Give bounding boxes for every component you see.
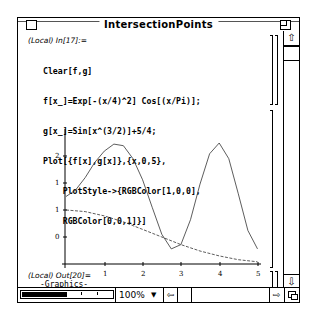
graphics-cell-bracket[interactable]: [270, 110, 273, 268]
svg-text:1: 1: [55, 206, 59, 214]
notebook-content[interactable]: (Local) In[17]:= Clear[f,g] f[x_]=Exp[-(…: [18, 31, 284, 289]
svg-text:1: 1: [55, 179, 59, 187]
zoom-box-icon[interactable]: [280, 20, 291, 30]
vertical-scroll-thumb[interactable]: [284, 46, 299, 61]
svg-text:2: 2: [141, 270, 145, 278]
vertical-scrollbar[interactable]: ⇧ ⇩: [283, 31, 299, 289]
notebook-window: IntersectionPoints (Local) In[17]:= Clea…: [17, 17, 300, 303]
series-g-curve: [66, 143, 258, 249]
window-title: IntersectionPoints: [99, 18, 218, 31]
svg-text:4: 4: [218, 270, 223, 278]
series-f-curve: [66, 210, 258, 262]
input-cell-bracket[interactable]: [270, 35, 273, 105]
horizontal-scroll-thumb[interactable]: [178, 288, 192, 302]
x-tick-labels: 1 2 3 4 5: [103, 270, 260, 278]
group-cell-bracket[interactable]: [275, 35, 278, 105]
svg-text:2: 2: [55, 152, 59, 160]
plot-graphic[interactable]: 1 2 3 4 5 0 1 1 2: [18, 31, 284, 289]
output-cell-label: (Local) Out[20]=: [28, 271, 91, 280]
svg-text:3: 3: [179, 270, 183, 278]
scroll-left-arrow-icon[interactable]: ⇦: [164, 288, 178, 302]
bottom-bar: 100% ▼ ⇦ ⇨: [18, 287, 299, 302]
y-tick-labels: 0 1 1 2: [55, 152, 59, 241]
scroll-up-arrow-icon[interactable]: ⇧: [284, 31, 299, 46]
svg-text:0: 0: [55, 233, 59, 241]
magnification-slider[interactable]: [20, 290, 114, 299]
magnification-fill: [22, 292, 67, 297]
svg-text:5: 5: [256, 270, 260, 278]
zoom-dropdown-icon[interactable]: ▼: [151, 288, 156, 302]
horizontal-scrollbar[interactable]: ⇦ ⇨: [163, 288, 283, 302]
svg-text:1: 1: [103, 270, 107, 278]
resize-grow-box-icon[interactable]: [284, 288, 299, 302]
title-bar[interactable]: IntersectionPoints: [18, 18, 299, 32]
close-box-icon[interactable]: [26, 20, 37, 30]
scroll-right-arrow-icon[interactable]: ⇨: [269, 288, 283, 302]
